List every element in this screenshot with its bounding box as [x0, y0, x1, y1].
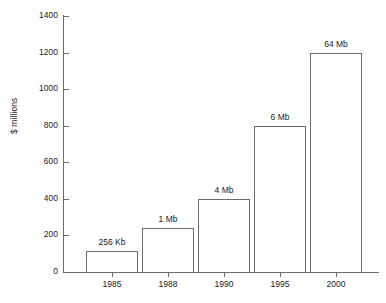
bar-value-label: 64 Mb [301, 40, 371, 49]
bar-chart: $ millions 0200400600800100012001400 198… [0, 0, 386, 303]
y-tick-label-text: 200 [24, 230, 58, 239]
y-tick-label-text: 600 [24, 157, 58, 166]
y-tick-label-text: 1400 [24, 11, 58, 20]
y-tick-mark [63, 89, 69, 90]
y-tick-label: 800 [20, 121, 58, 131]
y-tick-mark [63, 272, 69, 273]
y-tick-label: 400 [20, 194, 58, 204]
bar [198, 199, 250, 273]
x-tick-label: 1995 [250, 280, 310, 289]
y-tick-label: 200 [20, 230, 58, 240]
y-tick-label-text: 1000 [24, 84, 58, 93]
y-tick-label-text: 1200 [24, 48, 58, 57]
bar-value-label: 6 Mb [245, 113, 315, 122]
bar-value-label: 256 Kb [77, 238, 147, 247]
y-tick-mark [63, 16, 69, 17]
y-tick-mark [63, 53, 69, 54]
bar [310, 53, 362, 273]
y-tick-label: 0 [20, 267, 58, 277]
bar [254, 126, 306, 273]
x-tick-label: 1990 [194, 280, 254, 289]
bar-value-label: 1 Mb [133, 215, 203, 224]
bar [142, 228, 194, 273]
y-tick-label: 600 [20, 157, 58, 167]
bar-value-label: 4 Mb [189, 186, 259, 195]
x-tick-label: 2000 [306, 280, 366, 289]
y-tick-mark [63, 126, 69, 127]
y-tick-mark [63, 235, 69, 236]
y-tick-mark [63, 162, 69, 163]
y-tick-label: 1200 [20, 48, 58, 58]
x-tick-label: 1988 [138, 280, 198, 289]
y-axis-line [63, 15, 64, 273]
y-tick-label-text: 800 [24, 121, 58, 130]
y-tick-label-text: 0 [24, 267, 58, 276]
y-axis-label: $ millions [9, 120, 19, 134]
bar [86, 251, 138, 273]
y-tick-label: 1000 [20, 84, 58, 94]
y-tick-label: 1400 [20, 11, 58, 21]
y-tick-label-text: 400 [24, 194, 58, 203]
y-tick-mark [63, 199, 69, 200]
x-tick-label: 1985 [82, 280, 142, 289]
